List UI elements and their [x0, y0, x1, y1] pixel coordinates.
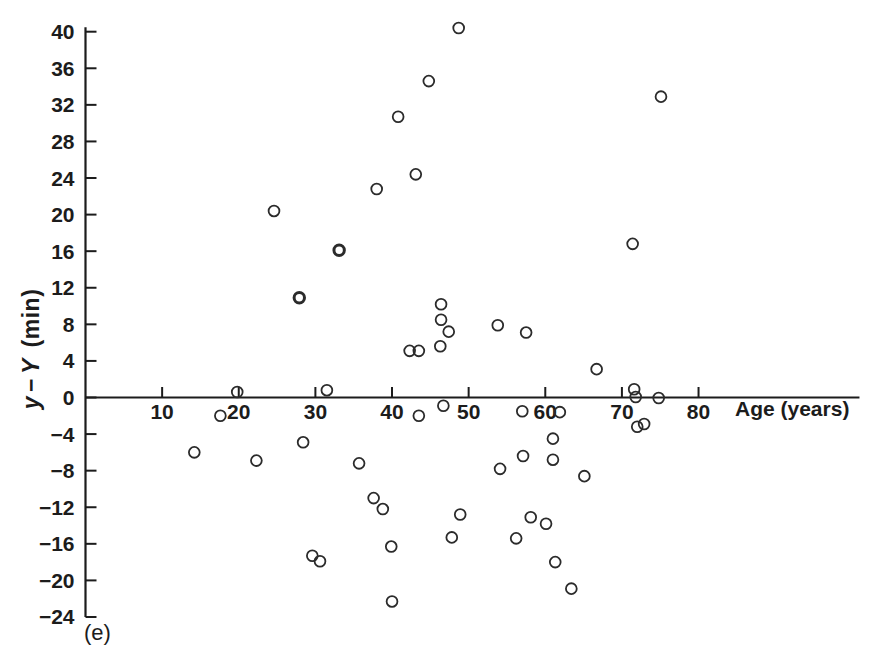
y-axis-title: y−Y (min) [18, 287, 45, 412]
x-tick-label: 30 [304, 400, 327, 423]
data-point [298, 437, 309, 448]
x-tick-label: 50 [457, 400, 480, 423]
data-point [495, 463, 506, 474]
data-point [435, 341, 446, 352]
data-point [423, 76, 434, 87]
y-tick-label: 32 [51, 93, 74, 116]
y-tick-label: 8 [63, 313, 75, 336]
data-point [410, 169, 421, 180]
y-tick-label: −8 [51, 459, 75, 482]
data-point [354, 458, 365, 469]
data-point [453, 23, 464, 34]
data-point-emphasized [294, 293, 304, 303]
plot-canvas: 4036322824201612840−4−8−12−16−20−2410203… [0, 0, 869, 666]
x-tick-label: 40 [380, 400, 403, 423]
y-tick-label: 0 [63, 386, 75, 409]
x-tick-label: 20 [227, 400, 250, 423]
data-point [548, 433, 559, 444]
data-point [627, 238, 638, 249]
x-tick-label: 80 [687, 400, 710, 423]
y-tick-label: −4 [51, 423, 75, 446]
x-axis-title: Age (years) [735, 397, 849, 421]
data-point-emphasized [334, 245, 344, 255]
y-tick-label: −20 [39, 569, 75, 592]
y-axis-title-minus: − [18, 378, 44, 392]
scatter-plot-figure: 4036322824201612840−4−8−12−16−20−2410203… [0, 0, 869, 666]
data-point [518, 451, 529, 462]
data-point [189, 447, 200, 458]
data-point [387, 596, 398, 607]
y-tick-label: 20 [51, 203, 74, 226]
data-point [436, 314, 447, 325]
data-point [321, 385, 332, 396]
data-point [566, 583, 577, 594]
data-point [443, 326, 454, 337]
data-point [377, 504, 388, 515]
data-point [521, 327, 532, 338]
data-point [315, 556, 326, 567]
y-tick-label: 12 [51, 276, 74, 299]
data-point [579, 471, 590, 482]
y-axis-title-unit: (min) [18, 289, 44, 348]
data-point [307, 550, 318, 561]
data-point [517, 406, 528, 417]
data-point [525, 512, 536, 523]
y-tick-label: 40 [51, 20, 74, 43]
data-point [632, 421, 643, 432]
data-point [371, 184, 382, 195]
y-tick-label: −24 [39, 605, 75, 628]
data-point [232, 387, 243, 398]
x-tick-label: 10 [150, 400, 173, 423]
y-tick-label: 16 [51, 240, 74, 263]
data-point [251, 455, 262, 466]
data-point [393, 111, 404, 122]
y-tick-label: 4 [63, 349, 75, 372]
data-point [269, 206, 280, 217]
y-tick-label: −12 [39, 496, 75, 519]
data-point [436, 299, 447, 310]
data-point [656, 91, 667, 102]
data-point [413, 410, 424, 421]
data-point [639, 419, 650, 430]
x-tick-label: 60 [534, 400, 557, 423]
y-tick-label: 28 [51, 130, 75, 153]
data-point [541, 518, 552, 529]
data-point [550, 557, 561, 568]
y-tick-label: −16 [39, 532, 75, 555]
data-point [446, 532, 457, 543]
y-tick-label: 36 [51, 57, 74, 80]
data-point [548, 454, 559, 465]
data-point [591, 364, 602, 375]
data-point [438, 400, 449, 411]
data-point [368, 493, 379, 504]
data-point [455, 509, 466, 520]
data-point [511, 533, 522, 544]
data-point [215, 410, 226, 421]
data-point [386, 541, 397, 552]
x-tick-label: 70 [610, 400, 633, 423]
y-tick-label: 24 [51, 167, 75, 190]
figure-panel-label: (e) [84, 620, 111, 646]
data-point [492, 320, 503, 331]
y-axis-title-var2: Y [18, 358, 44, 374]
y-axis-title-var1: y [18, 396, 44, 409]
